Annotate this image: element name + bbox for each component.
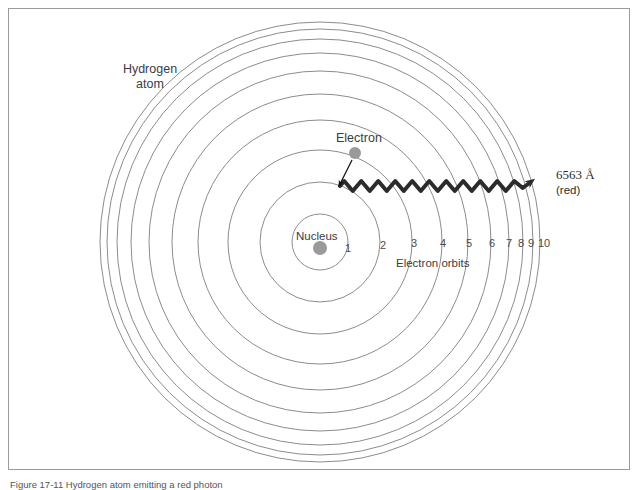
photon-color-name: (red): [556, 184, 595, 198]
photon-wave: [340, 181, 528, 191]
electron-label: Electron: [336, 131, 382, 146]
nucleus-label: Nucleus: [296, 230, 338, 244]
hydrogen-atom-label: Hydrogen atom: [92, 62, 208, 92]
orbit-number-6: 6: [489, 237, 495, 249]
orbit-number-2: 2: [380, 239, 386, 251]
orbit-number-9: 9: [528, 237, 534, 249]
orbit-number-8: 8: [518, 237, 524, 249]
electron-dot: [349, 147, 361, 159]
photon-wavelength-label: 6563 Å (red): [556, 167, 595, 198]
orbit-number-4: 4: [440, 237, 446, 249]
orbit-number-7: 7: [506, 237, 512, 249]
electron-orbits-label: Electron orbits: [396, 257, 470, 271]
hydrogen-atom-label-line2: atom: [92, 77, 208, 92]
orbit-number-5: 5: [466, 237, 472, 249]
orbit-number-3: 3: [411, 237, 417, 249]
orbit-number-10: 10: [538, 237, 550, 249]
orbit-number-1: 1: [345, 242, 351, 254]
hydrogen-atom-label-line1: Hydrogen: [92, 62, 208, 77]
figure-caption: Figure 17-11 Hydrogen atom emitting a re…: [10, 479, 630, 490]
figure-root: Hydrogen atom Electron Nucleus Electron …: [0, 0, 640, 490]
photon-wavelength-value: 6563 Å: [556, 167, 595, 182]
